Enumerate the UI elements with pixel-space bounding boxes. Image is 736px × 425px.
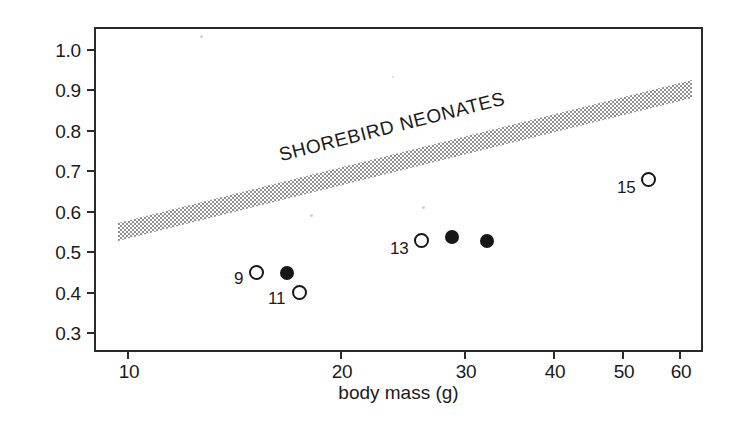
y-tick-0.5: 0.5 bbox=[87, 251, 96, 253]
data-point-open-15 bbox=[641, 172, 656, 187]
y-tick-0.6: 0.6 bbox=[87, 211, 96, 213]
x-tick-10: 10 bbox=[127, 350, 129, 359]
data-point-filled-1 bbox=[280, 266, 294, 280]
y-tick-1.0: 1.0 bbox=[87, 49, 96, 51]
x-axis-title: body mass (g) bbox=[94, 382, 703, 404]
y-tick-label: 1.0 bbox=[55, 40, 81, 62]
x-tick-label: 40 bbox=[545, 361, 566, 383]
data-point-label-9: 9 bbox=[234, 269, 243, 289]
y-tick-0.4: 0.4 bbox=[87, 292, 96, 294]
plot-area: SHOREBIRD NEONATES 1.0 0.9 0.8 0.7 0.6 0… bbox=[94, 27, 703, 352]
x-tick-label: 30 bbox=[456, 361, 477, 383]
print-speck bbox=[422, 206, 425, 209]
x-tick-label: 10 bbox=[119, 361, 140, 383]
print-speck bbox=[392, 76, 394, 78]
data-point-filled-2 bbox=[445, 230, 459, 244]
x-tick-50: 50 bbox=[622, 350, 624, 359]
y-tick-0.7: 0.7 bbox=[87, 170, 96, 172]
x-tick-label: 20 bbox=[332, 361, 353, 383]
y-tick-0.8: 0.8 bbox=[87, 130, 96, 132]
x-tick-30: 30 bbox=[464, 350, 466, 359]
x-tick-60: 60 bbox=[679, 350, 681, 359]
y-tick-label: 0.6 bbox=[55, 202, 81, 224]
data-point-open-9 bbox=[249, 265, 264, 280]
y-tick-label: 0.8 bbox=[55, 121, 81, 143]
y-tick-label: 0.3 bbox=[55, 323, 81, 345]
data-point-open-11 bbox=[292, 285, 307, 300]
band-label-shorebird-neonates: SHOREBIRD NEONATES bbox=[277, 88, 507, 166]
x-tick-label: 60 bbox=[671, 361, 692, 383]
x-tick-20: 20 bbox=[340, 350, 342, 359]
data-point-filled-3 bbox=[480, 234, 494, 248]
print-speck bbox=[200, 35, 203, 38]
y-tick-0.9: 0.9 bbox=[87, 89, 96, 91]
data-point-label-15: 15 bbox=[617, 178, 636, 198]
print-speck bbox=[310, 214, 313, 217]
x-tick-40: 40 bbox=[553, 350, 555, 359]
scatter-plot-figure: simulated H body mass (g) SHOREBI bbox=[0, 0, 736, 425]
data-point-label-13: 13 bbox=[390, 239, 409, 259]
shorebird-neonates-band bbox=[96, 29, 701, 350]
x-tick-label: 50 bbox=[614, 361, 635, 383]
y-tick-0.3: 0.3 bbox=[87, 332, 96, 334]
y-tick-label: 0.5 bbox=[55, 242, 81, 264]
data-point-open-13 bbox=[414, 233, 429, 248]
y-tick-label: 0.4 bbox=[55, 283, 81, 305]
y-tick-label: 0.9 bbox=[55, 80, 81, 102]
y-tick-label: 0.7 bbox=[55, 161, 81, 183]
data-point-label-11: 11 bbox=[268, 289, 285, 309]
